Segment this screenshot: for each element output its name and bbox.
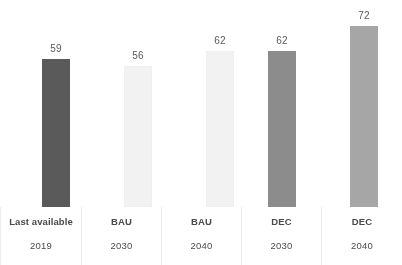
bar-5[interactable] (350, 26, 378, 207)
bar-slot-4: 62 (242, 0, 322, 207)
category-cell-3: BAU 2040 (162, 207, 242, 265)
category-year-1: 2019 (30, 240, 52, 252)
category-cell-2: BAU 2030 (82, 207, 162, 265)
category-year-3: 2040 (191, 240, 213, 252)
category-scenario-3: BAU (191, 216, 212, 228)
category-cell-5: DEC 2040 (322, 207, 402, 265)
category-scenario-4: DEC (271, 216, 291, 228)
bar-value-label-3: 62 (214, 35, 226, 46)
bar-value-label-4: 62 (276, 35, 288, 46)
category-scenario-1: Last available (9, 216, 73, 228)
bar-slot-1: 59 (16, 0, 96, 207)
bar-value-label-5: 72 (358, 10, 370, 21)
category-scenario-5: DEC (352, 216, 372, 228)
bar-2[interactable] (124, 66, 152, 207)
category-year-4: 2030 (271, 240, 293, 252)
bar-3[interactable] (206, 51, 234, 207)
category-year-5: 2040 (351, 240, 373, 252)
category-cell-4: DEC 2030 (242, 207, 322, 265)
bar-chart: 59 56 62 62 72 Last available 2019 (0, 0, 402, 265)
bar-4[interactable] (268, 51, 296, 207)
category-axis-table: Last available 2019 BAU 2030 BAU 2040 DE… (0, 207, 402, 265)
bar-slot-5: 72 (324, 0, 402, 207)
category-scenario-2: BAU (111, 216, 132, 228)
category-year-2: 2030 (111, 240, 133, 252)
bar-1[interactable] (42, 59, 70, 207)
bar-value-label-2: 56 (132, 50, 144, 61)
bar-value-label-1: 59 (50, 43, 62, 54)
bar-slot-2: 56 (98, 0, 178, 207)
category-cell-1: Last available 2019 (0, 207, 82, 265)
plot-area: 59 56 62 62 72 (0, 0, 402, 207)
